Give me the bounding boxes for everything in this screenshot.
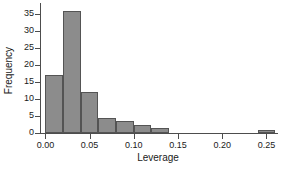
x-axis-tick-label: 0.10 [117,140,151,150]
x-axis-tick [222,134,223,139]
y-axis-tick-label: 5 [14,111,34,120]
histogram-bar [63,11,81,133]
y-axis-tick-label: 30 [14,26,34,35]
histogram-chart: Frequency 05101520253035 0.000.050.100.1… [0,0,289,178]
y-axis-tick [35,65,40,66]
y-axis-tick [35,116,40,117]
histogram-bar [45,75,63,133]
x-axis-title: Leverage [38,152,278,163]
x-axis-tick-label: 0.00 [28,140,62,150]
y-axis-tick-label: 35 [14,9,34,18]
y-axis-tick-label: 10 [14,94,34,103]
y-axis-tick-label: 0 [14,128,34,137]
y-axis-tick-label-text: 15 [18,77,34,86]
x-axis-tick-label: 0.20 [205,140,239,150]
y-axis-tick-label-text: 5 [18,111,34,120]
y-axis-tick-label-text: 30 [18,26,34,35]
x-axis-tick-label: 0.05 [73,140,107,150]
histogram-bar [151,128,169,133]
y-axis-tick [35,99,40,100]
y-axis-tick-label-text: 10 [18,94,34,103]
bars-layer [41,4,277,134]
histogram-bar [98,118,116,133]
histogram-bar [81,92,99,133]
x-axis-tick [90,134,91,139]
y-axis-tick-label-text: 25 [18,43,34,52]
y-axis-tick-label-text: 20 [18,60,34,69]
histogram-bar [116,121,134,133]
y-axis-tick-label-text: 0 [18,128,34,137]
x-axis-tick-label: 0.25 [249,140,283,150]
x-axis-tick [266,134,267,139]
y-axis-tick [35,82,40,83]
y-axis-tick-label: 15 [14,77,34,86]
x-axis-tick [134,134,135,139]
y-axis-tick-label-text: 35 [18,9,34,18]
y-axis-tick [35,48,40,49]
y-axis-title-text: Frequency [4,46,15,93]
y-axis-tick [35,31,40,32]
x-axis-tick [178,134,179,139]
y-axis-tick-label: 25 [14,43,34,52]
x-axis-tick [45,134,46,139]
histogram-bar [134,125,152,133]
y-axis-tick-label: 20 [14,60,34,69]
x-axis-tick-label: 0.15 [161,140,195,150]
y-axis-tick [35,133,40,134]
histogram-bar [258,130,276,133]
y-axis-tick [35,14,40,15]
